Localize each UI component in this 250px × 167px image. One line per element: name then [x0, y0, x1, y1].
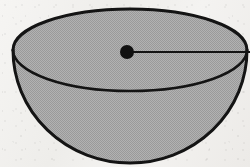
hemisphere-figure: Hemisphere with radius Shaded three-dime…: [0, 0, 250, 167]
figure-hit-area: Hemisphere with radius Shaded three-dime…: [0, 0, 250, 167]
